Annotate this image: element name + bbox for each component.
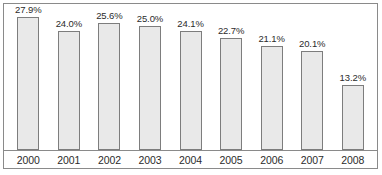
bar-value-label: 25.0% xyxy=(137,13,163,24)
x-tick-label-2000: 2000 xyxy=(8,154,49,166)
bar-value-label: 22.7% xyxy=(218,25,244,36)
bar-rect xyxy=(342,85,364,150)
bar-group: 25.0% xyxy=(130,4,171,150)
bar-chart-figure: 27.9% 24.0% 25.6% 25.0% 24.1% xyxy=(0,0,382,175)
x-tick-label-2007: 2007 xyxy=(292,154,333,166)
x-tick-label-2005: 2005 xyxy=(211,154,252,166)
bar-group: 25.6% xyxy=(89,4,130,150)
bar-rect xyxy=(220,38,242,150)
bar-value-label: 24.1% xyxy=(177,18,203,29)
bar-value-label: 20.1% xyxy=(299,38,325,49)
bars-layer: 27.9% 24.0% 25.6% 25.0% 24.1% xyxy=(4,4,377,150)
bar-value-label: 21.1% xyxy=(258,33,284,44)
bar-value-label: 13.2% xyxy=(340,72,366,83)
bar-value-label: 25.6% xyxy=(96,10,122,21)
bar-rect xyxy=(98,23,120,150)
plot-area: 27.9% 24.0% 25.6% 25.0% 24.1% xyxy=(4,4,377,150)
bar-group: 13.2% xyxy=(333,4,374,150)
chart-frame-border: 27.9% 24.0% 25.6% 25.0% 24.1% xyxy=(3,3,378,169)
bar-rect xyxy=(139,26,161,150)
x-tick-label-2008: 2008 xyxy=(333,154,374,166)
bar-group: 20.1% xyxy=(292,4,333,150)
x-tick-label-2003: 2003 xyxy=(130,154,171,166)
bar-rect xyxy=(301,51,323,150)
x-tick-label-2002: 2002 xyxy=(89,154,130,166)
x-tick-label-2004: 2004 xyxy=(170,154,211,166)
bar-value-label: 27.9% xyxy=(15,4,41,15)
bar-rect xyxy=(180,31,202,150)
x-tick-label-2006: 2006 xyxy=(251,154,292,166)
bar-value-label: 24.0% xyxy=(56,18,82,29)
x-axis-tick-labels: 2000 2001 2002 2003 2004 2005 2006 2007 … xyxy=(4,151,377,168)
x-tick-label-2001: 2001 xyxy=(49,154,90,166)
bar-group: 24.0% xyxy=(49,4,90,150)
bar-group: 22.7% xyxy=(211,4,252,150)
bar-group: 24.1% xyxy=(170,4,211,150)
bar-rect xyxy=(261,46,283,150)
bar-group: 21.1% xyxy=(251,4,292,150)
bar-group: 27.9% xyxy=(8,4,49,150)
bar-rect xyxy=(58,31,80,150)
bar-rect xyxy=(17,17,39,150)
